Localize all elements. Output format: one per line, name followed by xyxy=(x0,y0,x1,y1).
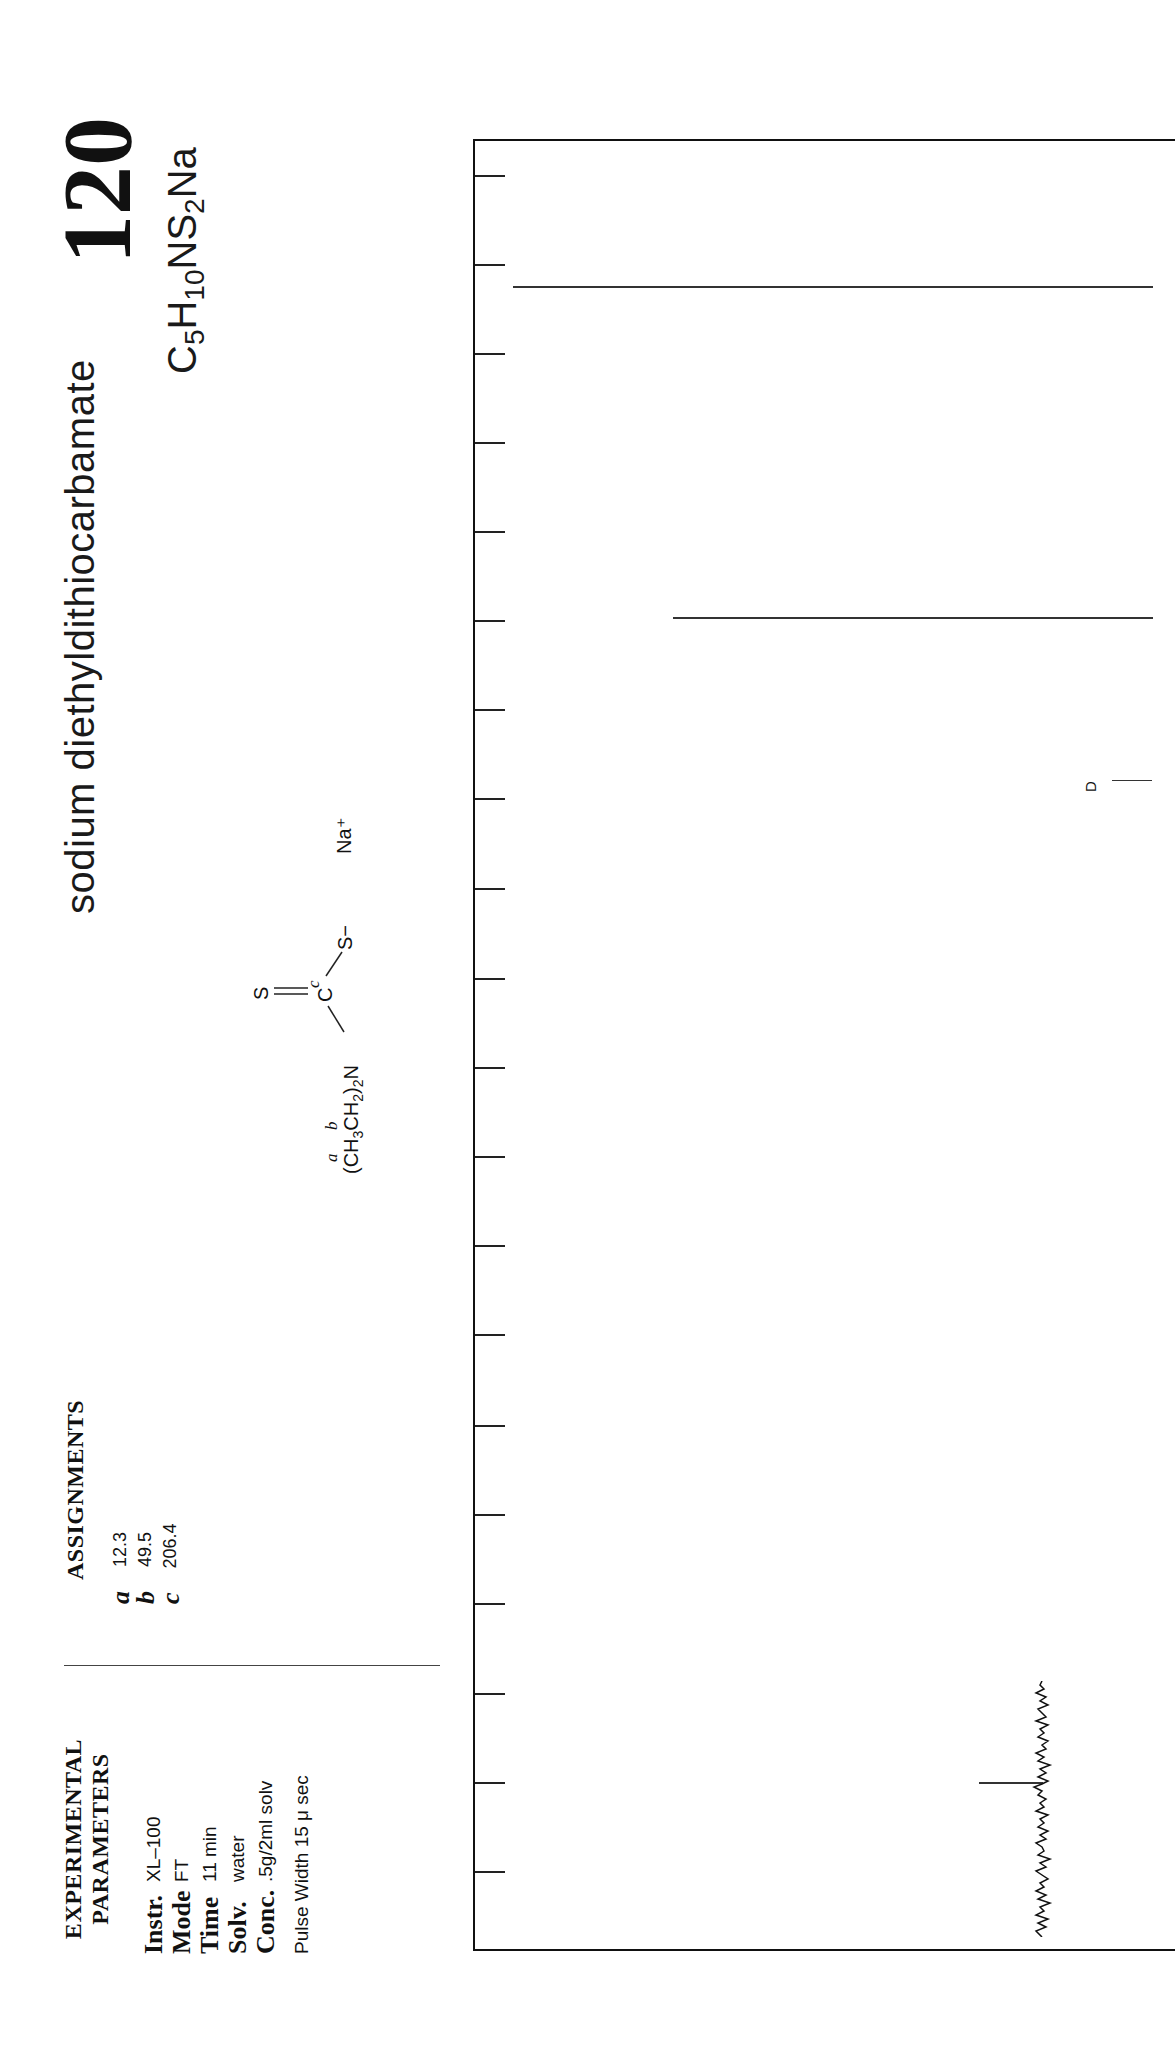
sodium-ion: Na⁺ xyxy=(332,817,356,854)
label-c: c xyxy=(304,980,324,988)
noise-baseline xyxy=(1028,1681,1068,1937)
axis-tick xyxy=(475,1156,505,1158)
thiolate-sulfur: S− xyxy=(334,925,357,950)
ch2-group: CH xyxy=(340,1102,362,1131)
param-value: .5g/2ml solv xyxy=(252,1781,280,1882)
carbon: C xyxy=(314,988,337,1002)
axis-tick xyxy=(475,1514,505,1516)
peak-a xyxy=(513,286,1153,288)
axis-tick xyxy=(475,1871,505,1873)
assignment-shift: 12.3 xyxy=(108,1532,133,1567)
molecular-formula: C5H10NS2Na xyxy=(160,147,211,374)
molecular-structure: a b (CH3CH2)2N C c S S− Na⁺ xyxy=(248,754,368,1174)
assignment-letter: a xyxy=(108,1591,133,1604)
assignment-letter: c xyxy=(158,1592,183,1604)
pulse-width: Pulse Width 15 μ sec xyxy=(288,1724,316,1954)
section-divider xyxy=(64,1665,440,1666)
sub-2a: 2 xyxy=(350,1094,366,1102)
axis-tick xyxy=(475,442,505,444)
formula-h: H xyxy=(160,301,204,330)
assignment-shift: 206.4 xyxy=(158,1523,183,1568)
compound-name: sodium diethyldithiocarbamate xyxy=(58,359,103,914)
peak-marker-label: D xyxy=(1082,781,1099,792)
param-row: Solv.water xyxy=(224,1724,252,1954)
sub-2b: 2 xyxy=(350,1080,366,1088)
param-key: Solv. xyxy=(224,1882,252,1954)
peak-b xyxy=(673,617,1153,619)
diethylamino-group: (CH3CH2)2N xyxy=(340,1065,366,1174)
assignment-row: a12.3 xyxy=(108,1523,133,1604)
params-heading-2: PARAMETERS xyxy=(87,1724,114,1954)
axis-tick xyxy=(475,1425,505,1427)
axis-tick xyxy=(475,1067,505,1069)
param-key: Mode xyxy=(168,1882,196,1954)
param-value: water xyxy=(224,1836,252,1882)
assignment-shift: 49.5 xyxy=(133,1532,158,1567)
axis-tick xyxy=(475,1334,505,1336)
thione-sulfur: S xyxy=(250,987,273,1000)
assignment-letter: b xyxy=(133,1591,158,1604)
formula-c: C xyxy=(160,345,204,374)
peak-marker-line xyxy=(1112,780,1152,781)
formula-ns: NS xyxy=(160,214,204,270)
assignments-heading: ASSIGNMENTS xyxy=(62,1400,89,1580)
axis-tick xyxy=(475,888,505,890)
axis-tick xyxy=(475,978,505,980)
param-key: Instr. xyxy=(140,1882,168,1954)
paren-close: ) xyxy=(340,1087,362,1094)
spectrum-number: 120 xyxy=(48,117,146,264)
params-heading-1: EXPERIMENTAL xyxy=(60,1724,87,1954)
param-value: FT xyxy=(168,1859,196,1882)
param-value: 11 min xyxy=(196,1826,224,1882)
label-a: a xyxy=(322,1154,342,1163)
axis-tick xyxy=(475,264,505,266)
axis-tick xyxy=(475,1693,505,1695)
assignments-table: a12.3 b49.5 c206.4 xyxy=(108,1523,183,1604)
formula-s-sub: 2 xyxy=(179,198,210,214)
axis-tick xyxy=(475,1782,505,1784)
spectrum-frame xyxy=(473,139,1175,1951)
assignment-row: c206.4 xyxy=(158,1523,183,1604)
ch-group: (CH xyxy=(340,1138,362,1174)
axis-tick xyxy=(475,175,505,177)
formula-c-sub: 5 xyxy=(179,330,210,346)
param-row: ModeFT xyxy=(168,1724,196,1954)
param-row: Time11 min xyxy=(196,1724,224,1954)
formula-h-sub: 10 xyxy=(179,269,210,300)
axis-tick xyxy=(475,531,505,533)
formula-na: Na xyxy=(160,147,204,198)
param-key: Time xyxy=(196,1882,224,1954)
label-b: b xyxy=(322,1122,342,1131)
param-value: XL–100 xyxy=(140,1816,168,1882)
axis-tick xyxy=(475,709,505,711)
param-key: Conc. xyxy=(252,1882,280,1954)
axis-tick xyxy=(475,353,505,355)
experimental-parameters: EXPERIMENTAL PARAMETERS Instr.XL–100 Mod… xyxy=(60,1724,316,1954)
param-row: Instr.XL–100 xyxy=(140,1724,168,1954)
sub-3: 3 xyxy=(350,1131,366,1139)
axis-tick xyxy=(475,1245,505,1247)
assignment-row: b49.5 xyxy=(133,1523,158,1604)
nitrogen: N xyxy=(340,1065,362,1079)
axis-tick xyxy=(475,620,505,622)
axis-tick xyxy=(475,1603,505,1605)
param-row: Conc..5g/2ml solv xyxy=(252,1724,280,1954)
axis-tick xyxy=(475,798,505,800)
